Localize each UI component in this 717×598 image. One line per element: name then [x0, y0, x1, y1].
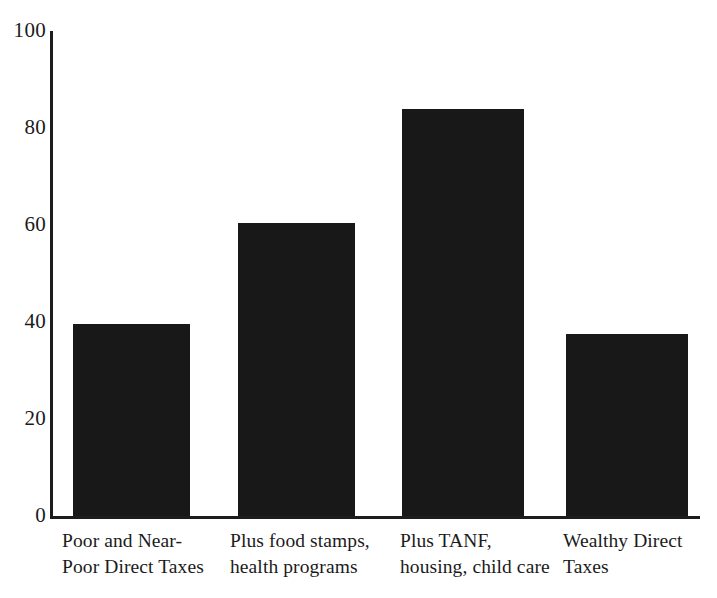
x-axis-label-1: Poor and Near-Poor Direct Taxes	[62, 528, 204, 580]
x-axis-label-1-line-1: Poor and Near-	[62, 528, 204, 554]
x-axis-label-4: Wealthy DirectTaxes	[563, 528, 683, 580]
x-axis-label-2-line-1: Plus food stamps,	[230, 528, 370, 554]
bar-plus-food-stamps-health-programs	[238, 223, 355, 516]
x-axis-label-3: Plus TANF,housing, child care	[400, 528, 550, 580]
plot-area: 020406080100 Poor and Near-Poor Direct T…	[0, 0, 717, 598]
bars-layer	[0, 0, 717, 598]
bar-wealthy-direct-taxes	[566, 334, 688, 516]
x-axis-label-2-line-2: health programs	[230, 554, 370, 580]
bar-chart: 020406080100 Poor and Near-Poor Direct T…	[0, 0, 717, 598]
x-axis-label-3-line-2: housing, child care	[400, 554, 550, 580]
x-axis-label-3-line-1: Plus TANF,	[400, 528, 550, 554]
x-axis-label-4-line-2: Taxes	[563, 554, 683, 580]
bar-poor-near-poor-direct-taxes	[73, 324, 190, 516]
x-axis-category-labels: Poor and Near-Poor Direct TaxesPlus food…	[0, 528, 717, 598]
x-axis-label-1-line-2: Poor Direct Taxes	[62, 554, 204, 580]
x-axis-label-4-line-1: Wealthy Direct	[563, 528, 683, 554]
bar-plus-tanf-housing-child-care	[402, 109, 524, 516]
x-axis-label-2: Plus food stamps,health programs	[230, 528, 370, 580]
